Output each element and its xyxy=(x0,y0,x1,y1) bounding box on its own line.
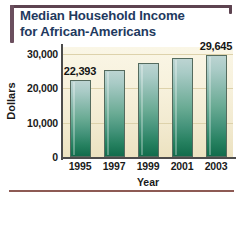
x-axis-line xyxy=(61,157,236,159)
bar-1997 xyxy=(104,70,125,157)
bars-container xyxy=(63,47,233,157)
x-axis-tick-labels: 19951997199920012003 xyxy=(63,160,233,174)
bar-1995 xyxy=(70,80,91,157)
bar-2003 xyxy=(206,55,227,157)
x-tick-label-2001: 2001 xyxy=(165,160,199,172)
y-axis-line xyxy=(61,44,63,160)
y-tick-label: 30,000 xyxy=(2,48,58,60)
y-tick-label: 0 xyxy=(2,151,58,163)
bar-1999 xyxy=(138,63,159,157)
bar-2001 xyxy=(172,58,193,157)
y-axis-title: Dollars xyxy=(5,71,17,131)
x-tick-label-1997: 1997 xyxy=(97,160,131,172)
data-label-1995: 22,393 xyxy=(52,65,108,77)
x-axis-title: Year xyxy=(63,176,233,188)
x-tick-label-2003: 2003 xyxy=(199,160,233,172)
x-tick-label-1999: 1999 xyxy=(131,160,165,172)
data-label-2003: 29,645 xyxy=(188,40,241,52)
x-tick-label-1995: 1995 xyxy=(63,160,97,172)
